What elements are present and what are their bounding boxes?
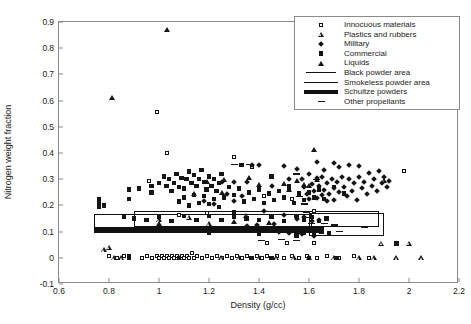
y-tick-label: 0.5 bbox=[42, 122, 54, 132]
data-point bbox=[155, 110, 159, 114]
data-point bbox=[217, 205, 221, 209]
data-point bbox=[272, 198, 276, 202]
legend-item[interactable]: Liquids bbox=[298, 58, 455, 68]
legend-item-label: Black powder area bbox=[344, 68, 410, 78]
y-tick-label: 0.7 bbox=[42, 69, 54, 79]
data-point bbox=[97, 197, 101, 201]
x-tick-mark bbox=[309, 278, 310, 282]
data-point bbox=[321, 187, 327, 193]
data-point bbox=[321, 167, 327, 173]
data-point bbox=[256, 226, 263, 227]
legend-item[interactable]: Plastics and rubbers bbox=[298, 30, 455, 40]
open-triangle-icon bbox=[298, 30, 344, 40]
data-point bbox=[207, 202, 211, 206]
data-point bbox=[169, 219, 173, 223]
data-point bbox=[256, 162, 262, 168]
data-point bbox=[341, 184, 347, 190]
data-point bbox=[369, 183, 375, 189]
data-point bbox=[232, 210, 236, 214]
data-point bbox=[258, 240, 265, 241]
data-point bbox=[298, 232, 305, 233]
legend-item[interactable]: Military bbox=[298, 39, 455, 49]
data-point bbox=[282, 256, 286, 260]
data-point bbox=[149, 190, 153, 194]
data-point bbox=[331, 197, 337, 203]
y-tick-mark bbox=[59, 126, 63, 127]
data-point bbox=[144, 218, 148, 222]
data-point bbox=[172, 181, 176, 185]
data-point bbox=[222, 195, 226, 199]
legend-item[interactable]: Innocuous materials bbox=[298, 20, 455, 30]
y-tick-mark bbox=[59, 74, 63, 75]
y-tick-mark bbox=[59, 22, 63, 23]
legend-item-label: Plastics and rubbers bbox=[344, 30, 416, 40]
data-point bbox=[212, 197, 216, 201]
legend-item-label: Smokeless powder area bbox=[344, 78, 430, 88]
data-point bbox=[312, 241, 316, 245]
data-point bbox=[177, 185, 181, 189]
data-point bbox=[165, 151, 169, 155]
legend-item[interactable]: Other propellants bbox=[298, 97, 455, 107]
data-point bbox=[192, 173, 196, 177]
legend-item[interactable]: Commercial bbox=[298, 49, 455, 59]
data-point bbox=[371, 176, 377, 182]
data-point bbox=[319, 229, 323, 233]
data-point bbox=[342, 191, 346, 195]
data-point bbox=[232, 155, 236, 159]
data-point bbox=[324, 216, 328, 220]
data-point bbox=[247, 190, 251, 194]
data-point bbox=[294, 233, 298, 237]
data-point bbox=[207, 174, 211, 178]
data-point bbox=[354, 197, 360, 203]
filled-square-icon bbox=[298, 49, 344, 59]
data-point bbox=[177, 199, 181, 203]
x-tick-label: 2 bbox=[407, 286, 412, 296]
data-point bbox=[302, 218, 306, 222]
data-point bbox=[269, 256, 273, 260]
data-point bbox=[306, 217, 313, 218]
data-point bbox=[190, 251, 194, 255]
y-tick-label: -0.1 bbox=[40, 279, 54, 289]
legend-item[interactable]: Black powder area bbox=[298, 68, 455, 78]
data-point bbox=[322, 197, 326, 201]
y-tick-mark bbox=[59, 48, 63, 49]
x-tick-label: 0.8 bbox=[103, 286, 115, 296]
x-tick-label: 1.2 bbox=[203, 286, 215, 296]
data-point bbox=[231, 179, 237, 185]
nitrogen-density-scatter-chart: Nitrogen weight fraction Density (g/cc) … bbox=[0, 0, 471, 324]
data-point bbox=[339, 174, 345, 180]
data-point bbox=[257, 218, 261, 222]
data-point bbox=[418, 255, 424, 260]
data-point bbox=[156, 221, 162, 226]
data-point bbox=[269, 215, 273, 219]
data-point bbox=[207, 214, 211, 218]
data-point bbox=[384, 184, 390, 190]
data-point bbox=[376, 168, 382, 174]
data-point bbox=[205, 254, 209, 258]
data-point bbox=[249, 256, 253, 260]
data-point bbox=[311, 147, 317, 152]
data-point bbox=[244, 216, 248, 220]
legend-item[interactable]: Smokeless powder area bbox=[298, 78, 455, 88]
data-point bbox=[111, 255, 117, 260]
thin-line-icon bbox=[298, 68, 344, 78]
legend-item[interactable]: Schultze powders bbox=[298, 87, 455, 97]
data-point bbox=[308, 223, 315, 224]
x-tick-mark bbox=[109, 278, 110, 282]
data-point bbox=[286, 230, 293, 231]
data-point bbox=[265, 241, 269, 245]
data-point bbox=[239, 163, 243, 167]
data-point bbox=[366, 170, 372, 176]
data-point bbox=[269, 183, 275, 189]
data-point bbox=[306, 171, 312, 177]
data-point bbox=[167, 177, 171, 181]
data-point bbox=[147, 179, 151, 183]
data-point bbox=[326, 191, 332, 197]
data-point bbox=[177, 256, 181, 260]
data-point bbox=[266, 220, 272, 225]
data-point bbox=[406, 241, 412, 246]
data-point bbox=[314, 159, 320, 165]
data-point bbox=[236, 255, 242, 260]
data-point bbox=[307, 256, 311, 260]
data-point bbox=[187, 203, 191, 207]
